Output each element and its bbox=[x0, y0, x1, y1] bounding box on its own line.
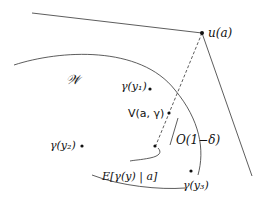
point-gamma-y2 bbox=[80, 144, 83, 147]
point-V bbox=[167, 111, 170, 114]
label-E: E[γ(y) | a] bbox=[101, 170, 158, 184]
label-O: O(1−δ) bbox=[176, 133, 220, 147]
cone-upper-line bbox=[32, 13, 202, 33]
label-V: V(a, γ) bbox=[128, 107, 164, 120]
cone-lower-line bbox=[202, 33, 252, 176]
label-gamma-y1: γ(y₁) bbox=[121, 80, 147, 93]
label-u-a: u(a) bbox=[208, 26, 233, 40]
point-u-a bbox=[200, 31, 204, 35]
diagram-canvas: u(a) 𝒲 γ(y₁) V(a, γ) γ(y₂) O(1−δ) E[γ(y)… bbox=[0, 0, 264, 208]
label-W: 𝒲 bbox=[66, 72, 83, 87]
point-gamma-y3 bbox=[189, 169, 192, 172]
label-gamma-y3: γ(y₃) bbox=[183, 179, 209, 192]
expectation-pointer bbox=[130, 148, 160, 161]
diagram-svg: u(a) 𝒲 γ(y₁) V(a, γ) γ(y₂) O(1−δ) E[γ(y)… bbox=[0, 0, 264, 208]
point-E bbox=[153, 144, 156, 147]
label-gamma-y2: γ(y₂) bbox=[50, 139, 76, 152]
point-gamma-y1 bbox=[148, 87, 151, 90]
dashed-line bbox=[156, 33, 202, 145]
set-boundary-upper bbox=[14, 54, 201, 175]
